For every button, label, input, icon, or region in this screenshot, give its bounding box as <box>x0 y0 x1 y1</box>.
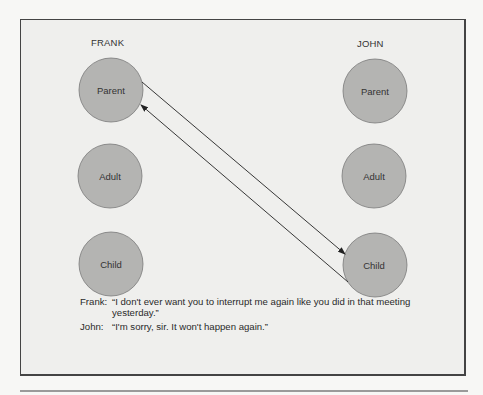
dialogue-line-frank: Frank: “I don't ever want you to interru… <box>80 296 420 318</box>
frank-adult-label: Adult <box>99 171 121 182</box>
john-child-node: Child <box>343 233 407 297</box>
bottom-rule <box>20 390 468 392</box>
arrow-frank-parent-to-john-child <box>142 82 345 254</box>
transaction-diagram: Parent Adult Child Parent Adult Child <box>0 0 483 395</box>
speaker-label: Frank: <box>80 296 112 318</box>
frank-parent-label: Parent <box>97 85 125 96</box>
frank-child-node: Child <box>79 232 143 296</box>
speaker-label: John: <box>80 321 112 332</box>
speech-text: “I don't ever want you to interrupt me a… <box>112 296 420 318</box>
frank-parent-node: Parent <box>79 58 143 122</box>
speech-text: “I'm sorry, sir. It won't happen again.” <box>112 321 420 332</box>
john-adult-node: Adult <box>342 144 406 208</box>
dialogue: Frank: “I don't ever want you to interru… <box>80 296 420 335</box>
john-child-label: Child <box>363 260 385 271</box>
dialogue-line-john: John: “I'm sorry, sir. It won't happen a… <box>80 321 420 332</box>
john-parent-label: Parent <box>361 86 389 97</box>
john-adult-label: Adult <box>363 171 385 182</box>
frank-child-label: Child <box>100 259 122 270</box>
john-parent-node: Parent <box>343 59 407 123</box>
frank-adult-node: Adult <box>78 144 142 208</box>
arrow-john-child-to-frank-parent <box>141 105 348 282</box>
